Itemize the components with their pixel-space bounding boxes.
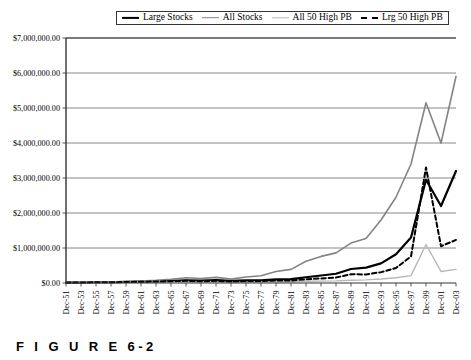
x-tick-label: Dec-51 (62, 291, 71, 315)
x-tick-label: Dec-61 (137, 291, 146, 315)
x-tick-label: Dec-53 (77, 291, 86, 315)
y-tick-label: $0.00 (42, 279, 60, 288)
y-tick-label: $2,000,000.00 (13, 209, 60, 218)
x-tick-label: Dec-95 (392, 291, 401, 315)
x-tick-label: Dec-03 (452, 291, 461, 315)
series-line-lrg-50-high-pb (66, 168, 456, 283)
x-tick-label: Dec-67 (182, 291, 191, 315)
x-tick-label: Dec-63 (152, 291, 161, 315)
x-tick-label: Dec-75 (242, 291, 251, 315)
y-tick-labels: $0.00$1,000,000.00$2,000,000.00$3,000,00… (13, 34, 60, 288)
x-tick-label: Dec-79 (272, 291, 281, 315)
gridlines-group (66, 38, 456, 248)
x-tick-label: Dec-93 (377, 291, 386, 315)
x-tick-labels: Dec-51Dec-53Dec-55Dec-57Dec-59Dec-61Dec-… (62, 291, 461, 315)
x-tick-label: Dec-55 (92, 291, 101, 315)
x-tick-label: Dec-01 (437, 291, 446, 315)
y-tick-label: $1,000,000.00 (13, 244, 60, 253)
x-tick-label: Dec-59 (122, 291, 131, 315)
y-tick-label: $5,000,000.00 (13, 104, 60, 113)
x-tick-label: Dec-83 (302, 291, 311, 315)
x-tick-label: Dec-81 (287, 291, 296, 315)
x-tick-label: Dec-87 (332, 291, 341, 315)
x-tick-label: Dec-71 (212, 291, 221, 315)
figure-container: Large StocksAll StocksAll 50 High PBLrg … (0, 0, 471, 360)
x-tick-label: Dec-57 (107, 291, 116, 315)
y-tick-label: $7,000,000.00 (13, 34, 60, 43)
x-tick-label: Dec-97 (407, 291, 416, 315)
x-tick-label: Dec-73 (227, 291, 236, 315)
line-chart: $0.00$1,000,000.00$2,000,000.00$3,000,00… (0, 0, 471, 335)
x-tick-label: Dec-85 (317, 291, 326, 315)
x-tick-label: Dec-65 (167, 291, 176, 315)
series-group (66, 77, 456, 283)
x-tick-label: Dec-69 (197, 291, 206, 315)
series-line-all-50-high-pb (66, 245, 456, 283)
y-tick-label: $4,000,000.00 (13, 139, 60, 148)
series-line-large-stocks (66, 171, 456, 283)
x-tick-label: Dec-91 (362, 291, 371, 315)
axes-group (63, 38, 457, 287)
x-tick-label: Dec-77 (257, 291, 266, 315)
x-tick-label: Dec-89 (347, 291, 356, 315)
y-tick-label: $3,000,000.00 (13, 174, 60, 183)
x-tick-label: Dec-99 (422, 291, 431, 315)
figure-caption: F I G U R E 6-2 (16, 339, 157, 354)
y-tick-label: $6,000,000.00 (13, 69, 60, 78)
